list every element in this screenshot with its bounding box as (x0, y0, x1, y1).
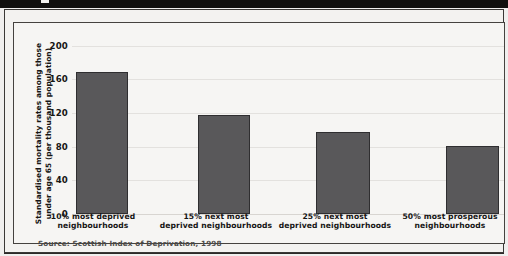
chart-screenshot: Standardised mortality rates among those… (0, 0, 508, 256)
category-label-3: 25% next most deprived neighbourhoods (272, 212, 398, 231)
y-tick-80: 80 (42, 142, 68, 152)
y-tick-120: 120 (42, 108, 68, 118)
plot-panel: Standardised mortality rates among those… (13, 22, 505, 244)
bar-4 (446, 146, 499, 214)
y-tick-160: 160 (42, 74, 68, 84)
gridline-80 (72, 147, 504, 148)
source-note: Source: Scottish Index of Deprivation, 1… (38, 239, 222, 248)
figure-frame: Standardised mortality rates among those… (4, 9, 504, 253)
y-tick-200: 200 (42, 41, 68, 51)
gridline-40 (72, 180, 504, 181)
category-label-2: 15% next most deprived neighbourhoods (153, 212, 279, 231)
gridline-120 (72, 113, 504, 114)
y-tick-40: 40 (42, 175, 68, 185)
bar-1 (76, 72, 128, 214)
bar-3 (316, 132, 370, 214)
gridline-160 (72, 79, 504, 80)
bottom-rule (4, 253, 504, 254)
header-black-band (0, 0, 508, 8)
bar-2 (198, 115, 250, 214)
category-label-1: 10% most deprived neighbourhoods (33, 212, 153, 231)
header-crop-mark (41, 0, 49, 3)
gridline-200 (72, 46, 504, 47)
category-label-4: 50% most prosperous neighbourhoods (395, 212, 505, 231)
